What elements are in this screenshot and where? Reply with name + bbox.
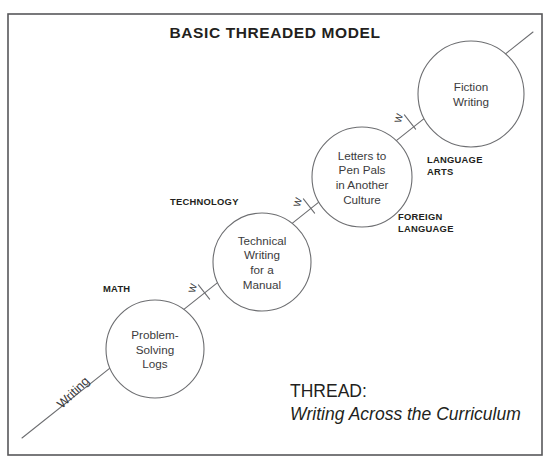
node-label-line: Letters to	[338, 149, 387, 162]
node-label-line: Logs	[142, 357, 168, 370]
subject-label-language-arts: ARTS	[427, 166, 454, 177]
node-label-line: Technical	[238, 234, 287, 247]
subject-label-language-arts: LANGUAGE	[427, 154, 483, 165]
subject-label-technology: TECHNOLOGY	[170, 196, 239, 207]
subject-label-math: MATH	[103, 283, 130, 294]
diagram-canvas: Problem-SolvingLogsMATHTechnicalWritingf…	[0, 0, 555, 467]
figure-title: BASIC THREADED MODEL	[170, 24, 381, 41]
threaded-model-figure: Problem-SolvingLogsMATHTechnicalWritingf…	[0, 0, 555, 467]
node-label-line: in Another	[336, 178, 389, 191]
node-label-line: for a	[250, 263, 274, 276]
caption-thread-value: Writing Across the Curriculum	[290, 404, 521, 424]
caption-thread-label: THREAD:	[290, 381, 367, 401]
subject-label-foreign-language: LANGUAGE	[398, 223, 454, 234]
node-label-line: Writing	[453, 95, 489, 108]
node-label-line: Solving	[136, 343, 174, 356]
node-label-line: Writing	[244, 248, 280, 261]
node-label-line: Pen Pals	[339, 163, 386, 176]
subject-label-foreign-language: FOREIGN	[398, 211, 442, 222]
node-label-line: Culture	[343, 193, 381, 206]
node-label-line: Manual	[243, 278, 281, 291]
node-label-line: Fiction	[454, 80, 488, 93]
node-label-line: Problem-	[131, 328, 179, 341]
